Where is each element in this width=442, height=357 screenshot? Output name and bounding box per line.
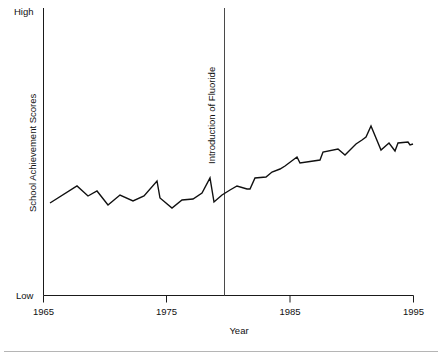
x-axis-title: Year — [229, 325, 248, 336]
x-tick-label-1995: 1995 — [403, 306, 424, 317]
x-tick-label-1965: 1965 — [33, 306, 54, 317]
x-tick-label-1975: 1975 — [156, 306, 177, 317]
x-tick-label-1985: 1985 — [279, 306, 300, 317]
y-axis-title: School Achievement Scores — [27, 93, 38, 212]
fluoride-annotation-label: Introduction of Fluoride — [206, 67, 217, 164]
achievement-scores-line — [50, 126, 413, 208]
y-axis-high-label: High — [14, 6, 34, 17]
chart-page: High Low School Achievement Scores 1965 … — [0, 0, 442, 357]
line-chart: High Low School Achievement Scores 1965 … — [0, 0, 442, 357]
y-axis-low-label: Low — [16, 290, 34, 301]
